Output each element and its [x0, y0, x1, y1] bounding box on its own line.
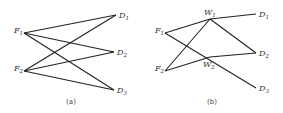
node-label-d1: D1: [118, 11, 129, 21]
edge-F1-D2: [24, 33, 114, 52]
edge-F2-D3: [24, 71, 114, 90]
node-label-d2: D2: [258, 49, 269, 59]
panel-b: F1F2W1W2D1D2D3(b): [154, 8, 269, 106]
node-label-w2: W2: [203, 60, 215, 70]
node-label-f1: F1: [13, 26, 23, 36]
panel-caption: (b): [207, 98, 217, 106]
node-label-f2: F2: [13, 64, 24, 74]
panel-caption: (a): [66, 98, 76, 106]
edge-W1-D2: [210, 19, 256, 53]
edge-W1-D1: [210, 14, 256, 19]
node-label-d1: D1: [258, 10, 269, 20]
node-label-d3: D3: [116, 86, 127, 96]
node-label-f1: F1: [154, 26, 164, 36]
node-label-d2: D2: [116, 48, 127, 58]
network-diagram: F1F2D1D2D3(a)F1F2W1W2D1D2D3(b): [0, 0, 283, 113]
diagram-svg: F1F2D1D2D3(a)F1F2W1W2D1D2D3(b): [0, 0, 283, 113]
edge-W2-D2: [210, 53, 256, 57]
panel-a: F1F2D1D2D3(a): [13, 11, 129, 106]
node-label-d3: D3: [258, 84, 269, 94]
node-label-w1: W1: [204, 8, 216, 18]
edge-F2-D2: [24, 52, 114, 71]
node-label-f2: F2: [154, 64, 165, 74]
